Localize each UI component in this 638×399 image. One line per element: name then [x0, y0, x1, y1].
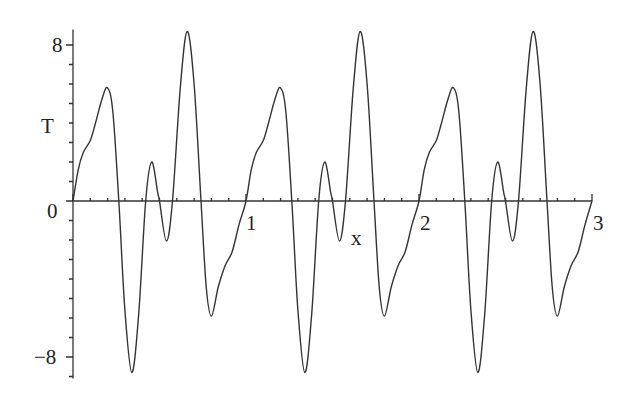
- plot-canvas: [0, 0, 638, 399]
- y-axis-ticks: [66, 45, 73, 377]
- x-tick-label-1: 1: [246, 213, 257, 234]
- y-tick-label-8: 8: [52, 35, 63, 56]
- y-tick-label-neg8: −8: [34, 347, 56, 368]
- x-tick-label-2: 2: [420, 213, 431, 234]
- y-tick-label-0: 0: [47, 201, 58, 222]
- x-tick-label-3: 3: [593, 213, 604, 234]
- x-axis-title: x: [351, 228, 362, 249]
- data-line-t-of-x: [73, 31, 592, 372]
- y-axis-title: T: [41, 116, 54, 137]
